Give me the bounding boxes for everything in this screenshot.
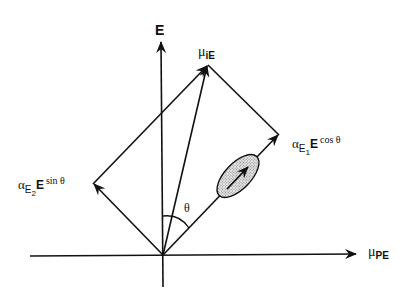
vertical-axis: [161, 42, 163, 287]
horizontal-axis: [30, 254, 356, 256]
right-component-label: αE1Ecos θ: [292, 134, 341, 157]
theta-angle-arc: [163, 216, 189, 228]
theta-label: θ: [184, 201, 190, 215]
left-component-vector: [94, 184, 163, 255]
horizontal-axis-label: μPE: [368, 244, 389, 261]
resultant-label: μiE: [198, 44, 215, 61]
resultant-vector: [163, 66, 207, 255]
vertical-axis-label: E: [155, 22, 164, 38]
parallelogram-right-side: [208, 65, 279, 135]
vector-diagram: E μiE αE1Ecos θ αE2Esin θ θ μPE: [0, 0, 415, 301]
parallelogram-left-side: [93, 66, 207, 184]
left-component-label: αE2Esin θ: [18, 175, 65, 198]
